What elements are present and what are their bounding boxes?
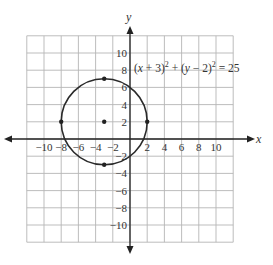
y-tick-label: 2 (122, 116, 128, 128)
equation-annotation: (x + 3)2 + (y − 2)2 = 25 (134, 60, 240, 75)
y-tick-label: 4 (122, 99, 128, 111)
y-axis-down-arrow-icon (127, 246, 134, 254)
x-tick-label: 6 (179, 141, 185, 153)
x-tick-label: 2 (144, 141, 150, 153)
point-top (102, 77, 106, 81)
point-right (145, 120, 149, 124)
point-center (102, 120, 106, 124)
y-tick-label: −4 (115, 167, 127, 179)
y-axis-up-arrow-icon (127, 26, 134, 34)
y-axis-label: y (125, 10, 132, 24)
x-axis-right-arrow-icon (247, 136, 255, 143)
x-tick-label: 8 (196, 141, 202, 153)
y-tick-label: 8 (122, 64, 128, 76)
x-tick-label: 10 (211, 141, 223, 153)
y-tick-label: −2 (115, 150, 127, 162)
x-tick-label: 4 (162, 141, 168, 153)
axes: x y (4, 10, 262, 254)
point-left (59, 120, 63, 124)
x-axis-left-arrow-icon (4, 136, 12, 143)
coordinate-plane: x y −10−8−6−4−2246810108642−2−4−6−8−10 (… (0, 0, 273, 265)
y-tick-label: −6 (115, 185, 127, 197)
x-tick-label: −10 (35, 141, 53, 153)
x-tick-label: −8 (55, 141, 67, 153)
y-tick-label: 10 (116, 47, 128, 59)
y-tick-label: −10 (110, 219, 128, 231)
point-bottom (102, 163, 106, 167)
x-tick-label: −4 (90, 141, 102, 153)
x-tick-label: −6 (73, 141, 85, 153)
y-tick-label: −8 (115, 202, 127, 214)
x-axis-label: x (255, 132, 262, 146)
